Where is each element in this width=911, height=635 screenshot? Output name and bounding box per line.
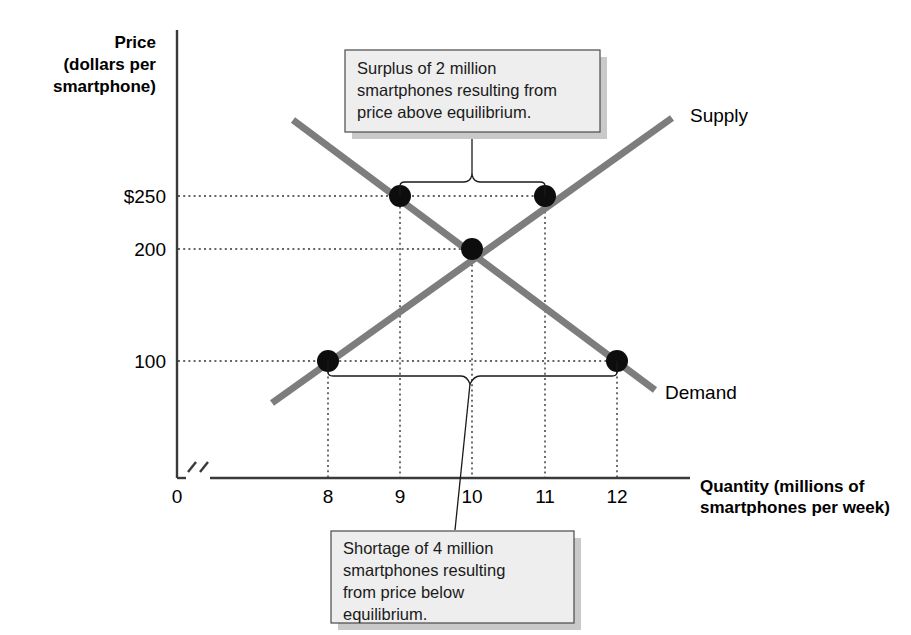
shortage-callout-line-3: from price below [343, 583, 464, 601]
shortage-callout-line-2: smartphones resulting [343, 561, 505, 579]
y-axis-title-line-2: (dollars per [63, 55, 156, 74]
y-tick-100: 100 [134, 351, 166, 372]
point-equilibrium [461, 238, 483, 260]
x-tick-10: 10 [461, 486, 482, 507]
surplus-callout-line-3: price above equilibrium. [357, 103, 531, 121]
y-axis-title-line-1: Price [114, 33, 156, 52]
x-tick-11: 11 [535, 486, 555, 507]
x-axis-title-line-2: smartphones per week) [700, 498, 890, 517]
y-axis-title-line-3: smartphone) [53, 77, 156, 96]
shortage-brace-stem [455, 384, 470, 530]
y-tick-200: 200 [134, 239, 166, 260]
x-tick-9: 9 [395, 486, 406, 507]
surplus-brace [400, 175, 545, 196]
surplus-callout-line-2: smartphones resulting from [357, 81, 557, 99]
x-tick-8: 8 [323, 486, 334, 507]
supply-demand-chart: Price (dollars per smartphone) $250 200 … [0, 0, 911, 635]
chart-figure: Price (dollars per smartphone) $250 200 … [0, 0, 911, 635]
supply-curve-label: Supply [690, 105, 749, 126]
shortage-callout-line-4: equilibrium. [343, 605, 427, 623]
demand-curve-label: Demand [665, 382, 737, 403]
surplus-callout-line-1: Surplus of 2 million [357, 59, 496, 77]
x-tick-0: 0 [172, 486, 183, 507]
x-tick-12: 12 [606, 486, 627, 507]
y-tick-250: $250 [124, 186, 166, 207]
x-axis-title-line-1: Quantity (millions of [700, 477, 865, 496]
axis-break-mark-2 [200, 462, 208, 472]
axis-break-mark-1 [188, 462, 196, 472]
shortage-callout-line-1: Shortage of 4 million [343, 539, 493, 557]
